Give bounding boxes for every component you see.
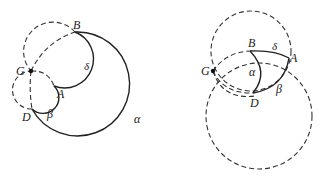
arc-delta (250, 51, 289, 58)
arc-beta (32, 86, 59, 113)
label-alpha: α (249, 65, 256, 79)
diagram-canvas: B G A D δ β α B G A D δ α β (0, 0, 329, 179)
dashed-line-g-d (30, 71, 32, 109)
label-g: G (201, 64, 210, 78)
circle-inversion-diagram: B G A D δ β α B G A D δ α β (0, 0, 329, 179)
label-d: D (249, 96, 259, 110)
dashed-arc-g-b (213, 51, 250, 71)
label-alpha: α (134, 112, 141, 126)
dashed-arc-g-a (31, 71, 54, 86)
dashed-circle-large (206, 63, 312, 169)
label-beta: β (275, 82, 282, 96)
label-d: D (21, 110, 31, 124)
dashed-arc-delta-rest (24, 22, 75, 71)
label-b: B (248, 36, 256, 50)
point-g-dot (211, 69, 215, 73)
right-figure: B G A D δ α β (201, 11, 312, 169)
label-delta: δ (84, 60, 90, 72)
label-beta: β (46, 107, 53, 121)
label-b: B (73, 18, 81, 32)
point-g-dot (29, 69, 33, 73)
label-delta: δ (272, 40, 278, 52)
label-a: A (56, 87, 65, 101)
label-a: A (289, 51, 298, 65)
dashed-arc-g-b-inner (31, 32, 75, 71)
label-g: G (16, 64, 25, 78)
left-figure: B G A D δ β α (12, 18, 141, 136)
